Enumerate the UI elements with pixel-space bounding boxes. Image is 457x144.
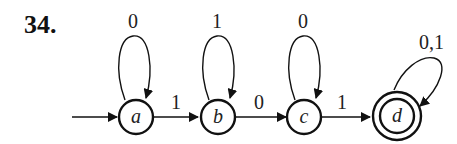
- transition-b-c: 0: [236, 91, 286, 117]
- svg-text:0: 0: [298, 10, 308, 32]
- state-a: a: [119, 100, 153, 134]
- transition-c-d: 1: [322, 91, 370, 117]
- svg-text:d: d: [392, 104, 403, 126]
- svg-text:b: b: [213, 105, 223, 127]
- self-loop-c: 0: [289, 10, 320, 100]
- state-c: c: [287, 100, 321, 134]
- svg-text:c: c: [300, 105, 309, 127]
- dfa-diagram: 1 0 1 0 1 0 0,1 a b c d: [0, 0, 457, 144]
- svg-text:0: 0: [128, 10, 138, 32]
- self-loop-a: 0: [119, 10, 150, 100]
- state-b: b: [201, 100, 235, 134]
- svg-text:1: 1: [212, 10, 222, 32]
- svg-text:a: a: [131, 105, 141, 127]
- state-d-accepting: d: [373, 92, 421, 140]
- svg-text:1: 1: [337, 91, 347, 113]
- self-loop-b: 1: [203, 10, 234, 100]
- svg-text:0,1: 0,1: [419, 31, 444, 53]
- svg-text:1: 1: [171, 91, 181, 113]
- svg-text:0: 0: [254, 91, 264, 113]
- transition-a-b: 1: [154, 91, 198, 117]
